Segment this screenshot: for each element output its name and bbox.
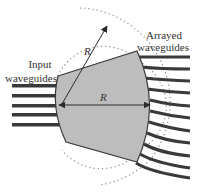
arrayed-waveguides-label-line1: Arrayed xyxy=(146,29,183,41)
arrayed-waveguides-label-line2: waveguides xyxy=(137,41,189,53)
radius-label-diagonal: R xyxy=(83,45,91,57)
input-waveguides-label-line2: waveguides xyxy=(5,72,57,84)
input-waveguides-label-line1: Input xyxy=(28,58,51,70)
radius-label-horizontal: R xyxy=(99,91,107,103)
free-propagation-region xyxy=(55,51,149,162)
star-coupler-diagram: Input waveguides Arrayed waveguides R R xyxy=(0,0,202,192)
input-waveguides xyxy=(12,84,60,127)
